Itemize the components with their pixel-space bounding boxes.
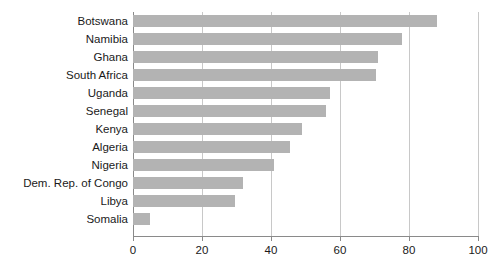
bar: [133, 33, 402, 45]
bar-row: [133, 120, 478, 138]
plot-area: [133, 12, 478, 236]
bar: [133, 105, 326, 117]
bar: [133, 15, 437, 27]
bar-row: [133, 192, 478, 210]
bar-row: [133, 66, 478, 84]
x-tick-80: [409, 237, 410, 241]
bar-row: [133, 174, 478, 192]
x-tick-40: [271, 237, 272, 241]
x-axis-line: [133, 236, 479, 237]
category-label: Algeria: [0, 138, 128, 156]
bar-series: [133, 12, 478, 236]
x-axis-tick-labels: 020406080100: [0, 243, 502, 261]
category-label: Namibia: [0, 30, 128, 48]
x-tick-60: [340, 237, 341, 241]
bar: [133, 51, 378, 63]
bar-row: [133, 84, 478, 102]
category-label: Uganda: [0, 84, 128, 102]
bar: [133, 141, 290, 153]
category-label: Libya: [0, 192, 128, 210]
x-tick-100: [478, 237, 479, 241]
category-axis-labels: BotswanaNamibiaGhanaSouth AfricaUgandaSe…: [0, 12, 128, 236]
bar-chart: BotswanaNamibiaGhanaSouth AfricaUgandaSe…: [0, 0, 502, 270]
bar-row: [133, 48, 478, 66]
x-tick-label: 40: [251, 243, 291, 257]
x-tick-label: 0: [113, 243, 153, 257]
category-label: Ghana: [0, 48, 128, 66]
category-label: Somalia: [0, 210, 128, 228]
bar: [133, 195, 235, 207]
bar: [133, 123, 302, 135]
bar-row: [133, 12, 478, 30]
category-label: Dem. Rep. of Congo: [0, 174, 128, 192]
bar-row: [133, 210, 478, 228]
category-label: Kenya: [0, 120, 128, 138]
x-tick-label: 20: [182, 243, 222, 257]
x-tick-0: [133, 237, 134, 241]
bar: [133, 159, 274, 171]
x-tick-label: 80: [389, 243, 429, 257]
bar-row: [133, 30, 478, 48]
bar-row: [133, 102, 478, 120]
x-tick-label: 100: [458, 243, 498, 257]
category-label: Senegal: [0, 102, 128, 120]
x-tick-label: 60: [320, 243, 360, 257]
bar-row: [133, 138, 478, 156]
bar: [133, 69, 376, 81]
gridline-100: [478, 12, 479, 236]
bar: [133, 87, 330, 99]
bar: [133, 177, 243, 189]
category-label: Nigeria: [0, 156, 128, 174]
bar-row: [133, 156, 478, 174]
category-label: South Africa: [0, 66, 128, 84]
category-label: Botswana: [0, 12, 128, 30]
bar: [133, 213, 150, 225]
x-tick-20: [202, 237, 203, 241]
